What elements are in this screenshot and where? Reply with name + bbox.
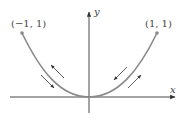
left-endpoint-label: (−1, 1) xyxy=(11,18,46,29)
arrow-left-down-icon xyxy=(41,75,54,88)
parabola-curve-smooth xyxy=(22,33,157,97)
y-axis-label: y xyxy=(93,6,100,17)
arrow-right-down-icon xyxy=(114,67,127,80)
right-endpoint-label: (1, 1) xyxy=(145,18,172,29)
x-axis-label: x xyxy=(170,84,176,95)
parabola-diagram: y x (−1, 1) (1, 1) xyxy=(0,0,179,123)
arrow-left-up-icon xyxy=(51,65,64,78)
left-endpoint-dot xyxy=(20,31,24,35)
right-endpoint-dot xyxy=(155,31,159,35)
